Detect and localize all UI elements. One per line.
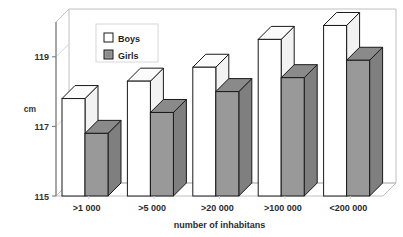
x-axis-category-label: <200 000 [329, 203, 367, 213]
bar-front-face [193, 67, 216, 196]
y-axis-tick-label: 115 [34, 192, 49, 202]
bar-girls-3 [216, 79, 252, 196]
bar-girls-5 [347, 47, 383, 196]
y-axis-tick-label: 117 [34, 122, 49, 132]
bar-front-face [216, 92, 239, 196]
x-axis-title: number of inhabitans [174, 220, 266, 230]
bar-front-face [324, 25, 347, 196]
chart-canvas: 115117119cm>1 000>5 000>20 000>100 000<2… [0, 0, 403, 237]
bar-side-face [304, 65, 317, 196]
legend-item-label-girls: Girls [118, 51, 139, 61]
y-axis-unit-label: cm [24, 104, 37, 114]
x-axis-category-label: >1 000 [73, 203, 101, 213]
bar-front-face [347, 60, 370, 196]
y-axis-tick-label: 119 [34, 52, 49, 62]
white-square-icon [104, 33, 113, 42]
frame-edge-right [383, 183, 396, 196]
gray-square-icon-inner [106, 52, 111, 57]
bar-front-face [258, 39, 281, 196]
x-axis-category-label: >5 000 [138, 203, 166, 213]
bar-front-face [127, 81, 150, 196]
bar-front-face [62, 99, 85, 196]
bar-side-face [173, 99, 186, 196]
x-axis-category-label: >20 000 [201, 203, 234, 213]
legend-item-label-boys: Boys [118, 34, 140, 44]
bar-girls-4 [281, 65, 317, 196]
y-gridline-depth [56, 44, 69, 57]
bar-side-face [239, 79, 252, 196]
frame-edge-top-left [56, 9, 69, 22]
bar-girls-2 [150, 99, 186, 196]
bar-front-face [85, 133, 108, 196]
bar-girls-1 [85, 120, 121, 196]
bar-front-face [281, 78, 304, 196]
bar-chart: 115117119cm>1 000>5 000>20 000>100 000<2… [0, 0, 403, 237]
bar-side-face [370, 47, 383, 196]
x-axis-category-label: >100 000 [264, 203, 302, 213]
bar-front-face [150, 112, 173, 196]
